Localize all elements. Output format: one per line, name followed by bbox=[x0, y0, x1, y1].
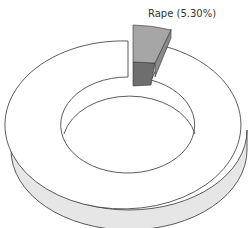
slice-side bbox=[133, 62, 155, 86]
slice-label: Rape (5.30%) bbox=[148, 8, 216, 19]
inner-hole-rim bbox=[64, 96, 195, 134]
ring-top[interactable] bbox=[5, 41, 241, 209]
donut-chart bbox=[0, 0, 248, 228]
